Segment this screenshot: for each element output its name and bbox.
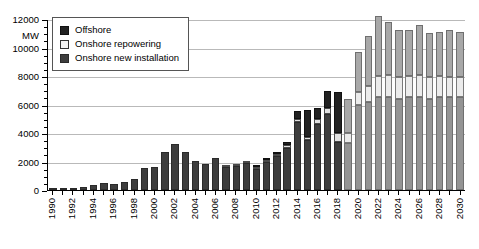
bar-segment <box>344 99 351 133</box>
bar-segment <box>212 158 219 190</box>
stacked-bar[interactable] <box>344 99 351 190</box>
stacked-bar[interactable] <box>100 183 107 190</box>
stacked-bar[interactable] <box>355 52 362 190</box>
stacked-bar[interactable] <box>385 22 392 190</box>
x-axis-tick-label: 1994 <box>88 198 98 219</box>
bar-segment <box>344 133 351 143</box>
x-axis-tick-label: 2008 <box>231 198 241 219</box>
wind-capacity-stacked-bar-chart: MW 020004000600080001000012000 199019921… <box>0 0 479 249</box>
x-axis-tick <box>348 191 349 195</box>
stacked-bar[interactable] <box>334 92 341 190</box>
stacked-bar[interactable] <box>304 110 311 190</box>
bar-segment <box>141 168 148 190</box>
bar-segment <box>416 25 423 75</box>
stacked-bar[interactable] <box>222 165 229 190</box>
bar-segment <box>426 77 433 98</box>
x-axis-slot: 2000 <box>149 191 159 249</box>
x-axis-tick <box>398 191 399 195</box>
bar-segment <box>456 97 463 190</box>
stacked-bar[interactable] <box>375 16 382 190</box>
x-axis-tick <box>368 191 369 195</box>
x-axis-slot: 1990 <box>47 191 57 249</box>
bar-segment <box>405 30 412 76</box>
stacked-bar[interactable] <box>60 188 67 190</box>
stacked-bar[interactable] <box>202 164 209 190</box>
stacked-bar[interactable] <box>171 144 178 190</box>
x-axis-tick <box>215 191 216 195</box>
bar-segment <box>426 33 433 77</box>
x-axis-tick-label: 2018 <box>333 198 343 219</box>
stacked-bar[interactable] <box>49 188 56 190</box>
y-axis-unit-label: MW <box>22 31 39 41</box>
stacked-bar[interactable] <box>436 32 443 190</box>
bar-segment <box>182 152 189 190</box>
stacked-bar[interactable] <box>70 188 77 190</box>
stacked-bar[interactable] <box>110 184 117 190</box>
x-axis-tick <box>429 191 430 195</box>
x-axis-tick-label: 2024 <box>394 198 404 219</box>
bar-slot <box>272 20 282 190</box>
chart-legend: Offshore Onshore repowering Onshore new … <box>52 17 189 71</box>
x-axis-slot: 2030 <box>455 191 465 249</box>
stacked-bar[interactable] <box>121 182 128 190</box>
bar-segment <box>385 22 392 75</box>
bar-segment <box>375 16 382 76</box>
stacked-bar[interactable] <box>416 25 423 190</box>
stacked-bar[interactable] <box>273 152 280 190</box>
bar-segment <box>222 167 229 190</box>
stacked-bar[interactable] <box>294 111 301 190</box>
stacked-bar[interactable] <box>446 30 453 190</box>
bar-segment <box>90 185 97 190</box>
x-axis-tick <box>388 191 389 195</box>
y-axis-tick-label: 0 <box>34 186 39 196</box>
bar-segment <box>405 76 412 97</box>
stacked-bar[interactable] <box>90 185 97 190</box>
stacked-bar[interactable] <box>161 152 168 190</box>
stacked-bar[interactable] <box>151 167 158 191</box>
bar-segment <box>171 144 178 190</box>
x-axis-tick <box>205 191 206 195</box>
x-axis-tick <box>449 191 450 195</box>
y-axis-tick-label: 12000 <box>13 15 39 25</box>
bar-segment <box>324 91 331 109</box>
stacked-bar[interactable] <box>253 165 260 190</box>
x-axis-tick <box>144 191 145 195</box>
stacked-bar[interactable] <box>314 108 321 190</box>
stacked-bar[interactable] <box>233 164 240 190</box>
stacked-bar[interactable] <box>212 158 219 190</box>
bar-segment <box>294 111 301 119</box>
x-axis-tick <box>460 191 461 195</box>
bar-segment <box>100 183 107 190</box>
x-axis-slot: 1996 <box>108 191 118 249</box>
stacked-bar[interactable] <box>283 142 290 190</box>
bar-segment <box>304 110 311 137</box>
x-axis-tick <box>103 191 104 195</box>
x-axis-tick <box>409 191 410 195</box>
legend-item-onshore-new-installation: Onshore new installation <box>60 51 179 65</box>
x-axis-slot: 2024 <box>393 191 403 249</box>
stacked-bar[interactable] <box>456 32 463 190</box>
bar-segment <box>426 99 433 190</box>
x-axis-slot <box>342 191 352 249</box>
stacked-bar[interactable] <box>365 36 372 190</box>
stacked-bar[interactable] <box>141 168 148 190</box>
stacked-bar[interactable] <box>192 161 199 190</box>
bar-slot <box>424 20 434 190</box>
bar-segment <box>395 30 402 77</box>
x-axis-slot: 2004 <box>190 191 200 249</box>
stacked-bar[interactable] <box>80 187 87 190</box>
stacked-bar[interactable] <box>324 91 331 190</box>
stacked-bar[interactable] <box>263 158 270 190</box>
stacked-bar[interactable] <box>182 152 189 190</box>
stacked-bar[interactable] <box>131 179 138 190</box>
stacked-bar[interactable] <box>395 30 402 190</box>
bar-segment <box>375 97 382 190</box>
bar-segment <box>151 167 158 191</box>
x-axis-slot <box>118 191 128 249</box>
bar-segment <box>253 169 260 190</box>
bar-slot <box>323 20 333 190</box>
stacked-bar[interactable] <box>243 161 250 190</box>
stacked-bar[interactable] <box>405 30 412 190</box>
stacked-bar[interactable] <box>426 33 433 190</box>
x-axis-tick <box>225 191 226 195</box>
